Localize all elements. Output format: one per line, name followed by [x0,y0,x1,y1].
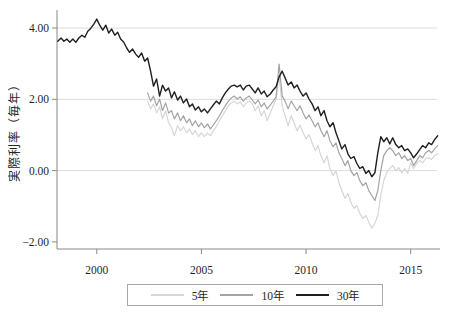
legend-line-sample-5y [151,294,184,296]
x-tick-label: 2015 [399,264,422,276]
y-tick-label: 0.00 [29,165,49,177]
legend-label-30y: 30年 [337,287,360,303]
series-line-30y [58,19,438,177]
y-tick-label: 4.00 [29,22,49,34]
x-tick-label: 2005 [190,264,213,276]
legend: 5年 10年 30年 [127,284,383,306]
legend-line-sample-30y [296,294,329,296]
x-tick-label: 2010 [295,264,318,276]
y-tick-label: 2.00 [29,93,49,105]
legend-item-30y: 30年 [296,287,360,303]
y-tick-label: −2.00 [22,236,49,248]
legend-label-10y: 10年 [261,287,284,303]
legend-line-sample-10y [220,294,253,296]
legend-item-5y: 5年 [151,287,209,303]
legend-item-10y: 10年 [220,287,284,303]
chart-figure: 実際利率（毎年） 4.002.000.00−2.0020002005201020… [0,0,449,314]
plot-area: 4.002.000.00−2.002000200520102015 [0,0,449,314]
legend-label-5y: 5年 [192,287,209,303]
x-tick-label: 2000 [85,264,108,276]
